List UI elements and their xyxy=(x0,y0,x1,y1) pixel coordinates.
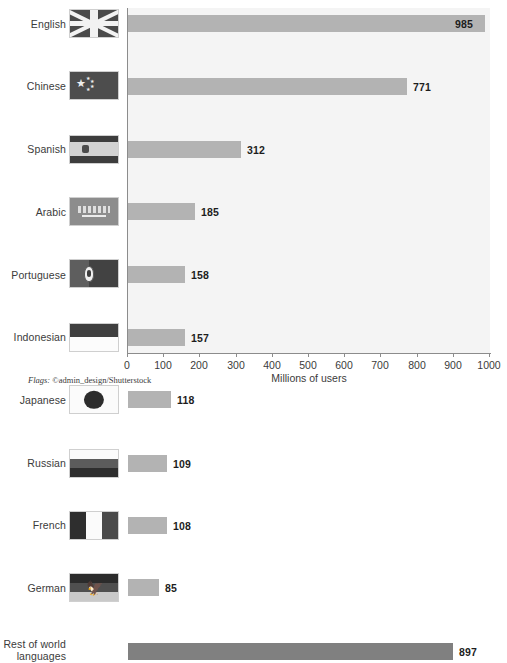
bar-row: Russian109 xyxy=(0,228,507,259)
bar xyxy=(128,643,453,660)
bar-row: German🦅85 xyxy=(0,290,507,321)
x-tick-mark xyxy=(163,353,164,357)
x-tick-label: 300 xyxy=(227,359,245,371)
bar xyxy=(128,391,171,408)
x-tick-mark xyxy=(127,353,128,357)
bar-rows: English985Chinese★★★★★771Spanish312Arabi… xyxy=(0,8,507,353)
bar xyxy=(128,579,159,596)
x-tick-label: 900 xyxy=(444,359,462,371)
bar xyxy=(128,455,167,472)
category-label: Japanese xyxy=(0,394,66,406)
category-label: German xyxy=(0,582,66,594)
category-label: Rest of worldlanguages xyxy=(0,638,66,663)
category-label: English xyxy=(0,18,66,30)
x-tick-mark xyxy=(453,353,454,357)
flag-russia-icon xyxy=(69,449,119,478)
flag-united-kingdom-icon xyxy=(69,9,119,38)
bar-row: Portuguese158 xyxy=(0,133,507,164)
x-tick-mark xyxy=(308,353,309,357)
bar-row: Arabic185 xyxy=(0,102,507,133)
x-tick-mark xyxy=(199,353,200,357)
category-label: French xyxy=(0,519,66,531)
x-tick-mark xyxy=(344,353,345,357)
category-label: Russian xyxy=(0,457,66,469)
x-tick-label: 800 xyxy=(408,359,426,371)
x-tick-mark xyxy=(380,353,381,357)
flag-france-icon xyxy=(69,511,119,540)
x-tick-mark xyxy=(272,353,273,357)
x-tick-label: 0 xyxy=(124,359,130,371)
bar-value-label: 109 xyxy=(173,458,191,470)
x-tick-label: 400 xyxy=(263,359,281,371)
x-tick-mark xyxy=(236,353,237,357)
bar-row: French108 xyxy=(0,259,507,290)
x-tick-mark xyxy=(489,353,490,357)
x-axis-title: Millions of users xyxy=(127,372,491,384)
flag-germany-icon: 🦅 xyxy=(69,573,119,602)
bar-value-label: 897 xyxy=(459,646,477,658)
image-credit: Flags: ©admin_design/Shutterstock xyxy=(28,375,151,385)
x-tick-label: 600 xyxy=(335,359,353,371)
bar-row: Japanese118 xyxy=(0,196,507,227)
x-tick-label: 700 xyxy=(371,359,389,371)
bar-row: Indonesian157 xyxy=(0,165,507,196)
x-tick-label: 200 xyxy=(190,359,208,371)
bar-row: Spanish312 xyxy=(0,71,507,102)
bar xyxy=(128,15,485,32)
x-tick-label: 100 xyxy=(154,359,172,371)
bar-value-label: 108 xyxy=(173,520,191,532)
bar-value-label: 985 xyxy=(455,18,473,30)
bar-row: Chinese★★★★★771 xyxy=(0,39,507,70)
x-tick-label: 500 xyxy=(299,359,317,371)
bar-value-label: 85 xyxy=(165,582,177,594)
bar xyxy=(128,517,167,534)
bar-row: Rest of worldlanguages897 xyxy=(0,322,507,353)
x-tick-label: 1000 xyxy=(477,359,500,371)
credit-prefix: Flags: xyxy=(28,375,50,385)
flag-japan-icon xyxy=(69,385,119,414)
bar-row: English985 xyxy=(0,8,507,39)
bar-value-label: 118 xyxy=(177,394,195,406)
x-tick-mark xyxy=(417,353,418,357)
credit-text: ©admin_design/Shutterstock xyxy=(50,375,151,385)
